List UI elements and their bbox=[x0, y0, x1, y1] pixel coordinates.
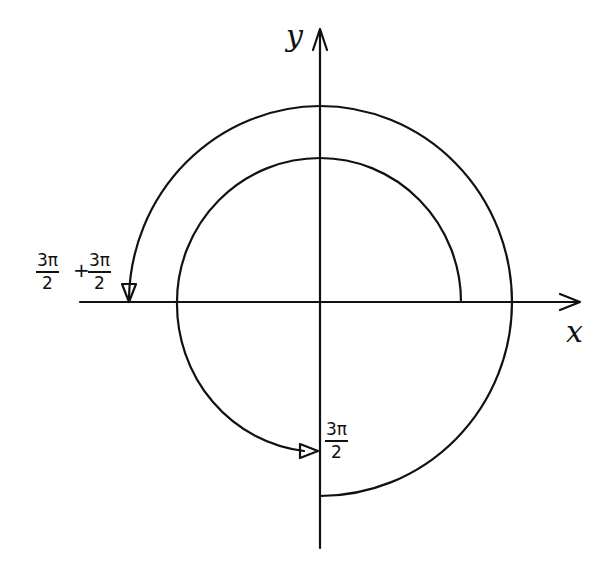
x-axis bbox=[80, 294, 580, 310]
start-angle-fraction: 3π 2 bbox=[325, 421, 348, 461]
sum-left-denominator: 2 bbox=[42, 273, 53, 292]
y-axis-label: y bbox=[286, 18, 303, 53]
start-angle-denominator: 2 bbox=[331, 442, 342, 461]
sum-right-numerator: 3π bbox=[88, 252, 111, 273]
sum-left-numerator: 3π bbox=[36, 252, 59, 273]
start-angle-numerator: 3π bbox=[325, 421, 348, 442]
sum-right-fraction: 3π 2 bbox=[88, 252, 111, 292]
sum-left-fraction: 3π 2 bbox=[36, 252, 59, 292]
sum-right-denominator: 2 bbox=[94, 273, 105, 292]
x-axis-label: x bbox=[566, 314, 583, 349]
